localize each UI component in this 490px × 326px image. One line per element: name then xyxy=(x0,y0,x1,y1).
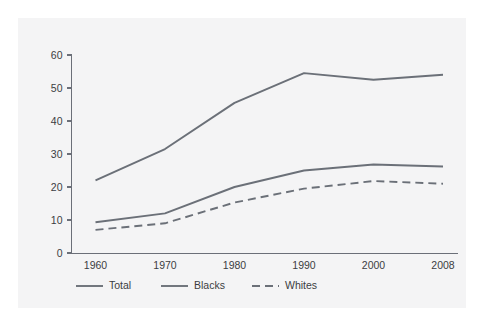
legend-label-total: Total xyxy=(109,279,131,291)
chart-legend: TotalBlacksWhites xyxy=(76,279,317,291)
series-line-blacks xyxy=(96,165,444,223)
y-tick-label: 30 xyxy=(51,148,63,160)
legend-label-blacks: Blacks xyxy=(194,279,225,291)
y-tick-label: 60 xyxy=(51,49,63,61)
y-tick-label: 50 xyxy=(51,82,63,94)
x-tick-label: 1960 xyxy=(84,259,108,271)
y-axis-ticks: 0102030405060 xyxy=(51,49,72,259)
x-tick-label: 1970 xyxy=(153,259,177,271)
x-tick-label: 1990 xyxy=(292,259,316,271)
chart-series-group xyxy=(96,73,444,230)
line-chart: 0102030405060 196019701980199020002008 T… xyxy=(18,18,466,308)
y-tick-label: 0 xyxy=(57,247,63,259)
legend-label-whites: Whites xyxy=(285,279,317,291)
x-tick-label: 2000 xyxy=(362,259,386,271)
y-tick-label: 20 xyxy=(51,181,63,193)
y-tick-label: 10 xyxy=(51,214,63,226)
chart-axes xyxy=(72,55,459,254)
y-tick-label: 40 xyxy=(51,115,63,127)
x-tick-label: 2008 xyxy=(431,259,455,271)
series-line-whites xyxy=(96,181,444,230)
x-axis-tick-labels: 196019701980199020002008 xyxy=(84,259,455,271)
x-tick-label: 1980 xyxy=(223,259,247,271)
chart-figure-panel: 0102030405060 196019701980199020002008 T… xyxy=(18,18,466,308)
